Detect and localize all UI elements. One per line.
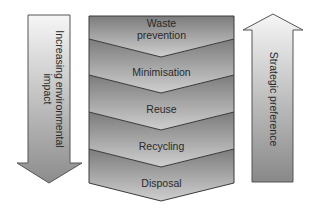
left-arrow-label-line1: Increasing environmental — [54, 19, 66, 159]
band-label-waste-prevention: Waste prevention — [89, 17, 234, 41]
band-label-recycling: Recycling — [89, 140, 234, 152]
left-arrow-label: Increasing environmental impact — [40, 19, 66, 159]
band-label-disposal: Disposal — [89, 177, 234, 189]
band-label-line: prevention — [89, 29, 234, 41]
left-arrow-label-line2: impact — [42, 19, 54, 159]
band-label-line: Waste — [89, 17, 234, 29]
right-arrow-label: Strategic preference — [268, 47, 280, 151]
band-label-reuse: Reuse — [89, 103, 234, 115]
band-label-minimisation: Minimisation — [89, 66, 234, 78]
